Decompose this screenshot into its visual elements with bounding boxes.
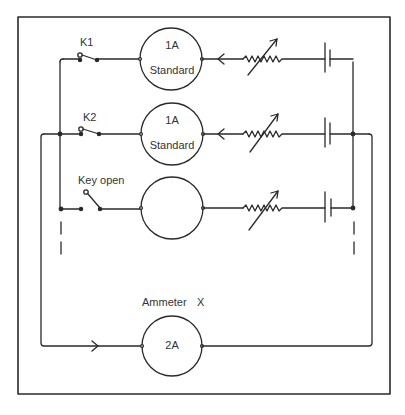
row3-rheostat-icon <box>243 205 325 211</box>
meter-1-standard-icon <box>140 28 202 90</box>
ammeter-title-label: Ammeter <box>142 296 187 308</box>
right-bus-node-row3 <box>351 206 355 210</box>
row1-rheostat-icon <box>243 56 325 62</box>
key-open-lever <box>88 194 100 208</box>
key-k1-lever <box>82 55 97 60</box>
right-bus-node-row2 <box>351 132 355 136</box>
key-k1-terminal-icon <box>78 58 81 61</box>
meter-1-standard-label: Standard <box>142 64 202 76</box>
key-k2-lever <box>83 129 99 134</box>
row2-rheostat-arrow <box>250 114 278 152</box>
meter-2-standard-label: Standard <box>142 139 202 151</box>
ammeter-id-label: X <box>197 296 204 308</box>
meter-3-icon <box>141 177 203 239</box>
key-k1-label: K1 <box>80 36 93 48</box>
key-open-pivot-icon <box>84 190 88 194</box>
ammeter-range-label: 2A <box>142 339 202 351</box>
meter-1-range-label: 1A <box>142 39 202 51</box>
key-open-terminal-icon <box>79 207 82 210</box>
circuit-diagram <box>0 0 405 415</box>
row2-rheostat-icon <box>243 131 325 137</box>
outer-left-loop-wire <box>41 134 141 346</box>
key-k2-label: K2 <box>83 111 96 123</box>
key-k2-terminal-icon <box>79 132 82 135</box>
key-open-label: Key open <box>78 174 124 186</box>
figure-frame <box>18 17 390 394</box>
outer-right-loop-wire <box>202 134 372 346</box>
meter-2-range-label: 1A <box>142 114 202 126</box>
meter-2-standard-icon <box>141 103 203 165</box>
